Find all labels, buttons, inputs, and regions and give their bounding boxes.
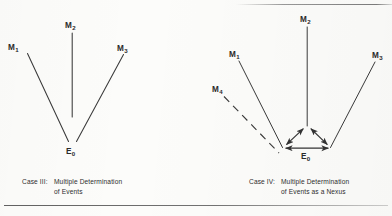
edge-m3-nexus: [331, 62, 376, 148]
case-3-diagram: [28, 33, 124, 142]
case-4-diagram: [224, 27, 375, 153]
caption-case-3: Case III:Multiple Determination of Event…: [22, 177, 122, 197]
caption-case-4-label: Case IV:: [249, 177, 281, 187]
label-e0-left: E0: [66, 148, 75, 156]
caption-case-3-line1: Multiple Determination: [54, 178, 122, 185]
nexus-arrow-right: [311, 129, 328, 145]
label-m3-left: M3: [117, 45, 127, 53]
caption-case-3-label: Case III:: [22, 177, 54, 187]
edge-m1-e0-left: [28, 54, 69, 142]
figure-page: M1 M2 M3 E0 M1 M2 M3 M4 E0 Case III:Mult…: [0, 0, 392, 216]
top-edge-rule: [236, 4, 392, 5]
nexus-triangle: [286, 129, 329, 149]
label-e0-right: E0: [301, 153, 310, 161]
label-m1-right: M1: [229, 51, 239, 59]
edge-m3-e0-left: [77, 55, 124, 142]
label-m2-right: M2: [300, 16, 310, 24]
caption-case-4: Case IV:Multiple Determination of Events…: [249, 177, 349, 197]
label-m3-right: M3: [372, 52, 382, 60]
caption-case-3-line2: of Events: [22, 187, 122, 197]
nexus-arrow-left: [286, 129, 303, 145]
caption-case-4-line1: Multiple Determination: [281, 178, 349, 185]
bottom-divider-rule: [4, 205, 388, 206]
label-m1-left: M1: [8, 44, 18, 52]
label-m4-right: M4: [212, 86, 222, 94]
caption-case-4-line2: of Events as a Nexus: [249, 187, 349, 197]
label-m2-left: M2: [65, 22, 75, 30]
